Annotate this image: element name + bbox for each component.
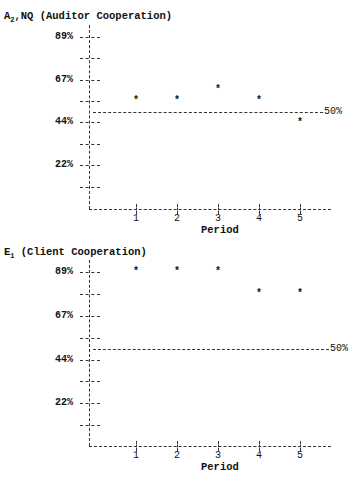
data-point: * bbox=[297, 117, 303, 128]
x-tick-label: 3 bbox=[215, 450, 221, 461]
y-tick-mark bbox=[80, 165, 100, 166]
x-tick-label: 3 bbox=[215, 213, 221, 224]
reference-line-label: 50% bbox=[330, 343, 348, 354]
y-tick-label: 44% bbox=[33, 116, 73, 127]
y-tick-mark bbox=[80, 37, 100, 38]
x-tick-label: 2 bbox=[174, 213, 180, 224]
y-tick-label: 89% bbox=[33, 266, 73, 277]
y-tick-label: 22% bbox=[33, 159, 73, 170]
y-tick-mark bbox=[80, 144, 100, 145]
y-tick-mark bbox=[80, 272, 100, 273]
y-axis bbox=[89, 25, 90, 209]
y-tick-mark bbox=[80, 403, 100, 404]
data-point: * bbox=[133, 266, 139, 277]
y-tick-label: 67% bbox=[33, 310, 73, 321]
data-point: * bbox=[174, 95, 180, 106]
data-point: * bbox=[215, 266, 221, 277]
x-tick-label: 5 bbox=[297, 450, 303, 461]
y-tick-label: 44% bbox=[33, 354, 73, 365]
y-tick-mark bbox=[80, 425, 100, 426]
x-axis bbox=[89, 446, 331, 447]
x-tick-label: 5 bbox=[297, 213, 303, 224]
y-tick-mark bbox=[80, 80, 100, 81]
y-tick-mark bbox=[80, 294, 100, 295]
x-axis-title: Period bbox=[201, 224, 239, 236]
x-tick-label: 4 bbox=[256, 450, 262, 461]
x-tick-label: 1 bbox=[133, 450, 139, 461]
data-point: * bbox=[256, 95, 262, 106]
data-point: * bbox=[215, 84, 221, 95]
y-axis bbox=[89, 260, 90, 446]
y-tick-mark bbox=[80, 338, 100, 339]
y-tick-mark bbox=[80, 360, 100, 361]
y-tick-mark bbox=[80, 381, 100, 382]
reference-line-label: 50% bbox=[324, 106, 342, 117]
y-tick-label: 22% bbox=[33, 397, 73, 408]
x-axis-title: Period bbox=[201, 461, 239, 473]
y-tick-mark bbox=[80, 58, 100, 59]
chart-title: E1 (Client Cooperation) bbox=[4, 246, 147, 260]
y-tick-label: 67% bbox=[33, 74, 73, 85]
y-tick-mark bbox=[80, 187, 100, 188]
reference-line-50 bbox=[93, 349, 329, 350]
x-tick-label: 2 bbox=[174, 450, 180, 461]
y-tick-mark bbox=[80, 122, 100, 123]
chart-title: A2,NQ (Auditor Cooperation) bbox=[4, 10, 172, 24]
y-tick-label: 89% bbox=[33, 31, 73, 42]
y-tick-mark bbox=[80, 316, 100, 317]
x-tick-label: 4 bbox=[256, 213, 262, 224]
reference-line-50 bbox=[93, 112, 323, 113]
data-point: * bbox=[133, 95, 139, 106]
data-point: * bbox=[297, 288, 303, 299]
y-tick-mark bbox=[80, 101, 100, 102]
x-axis bbox=[89, 209, 331, 210]
x-tick-label: 1 bbox=[133, 213, 139, 224]
data-point: * bbox=[174, 266, 180, 277]
data-point: * bbox=[256, 288, 262, 299]
